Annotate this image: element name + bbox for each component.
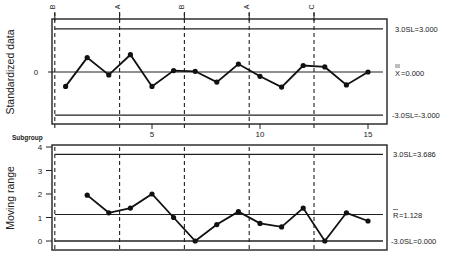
data-point [106,72,111,77]
stage-label: A [243,4,250,9]
data-point [171,215,176,220]
y-tick-label: 3 [38,167,43,176]
center-value-bottom: =1.128 [399,211,422,220]
y-tick-zero: 0 [34,68,39,77]
data-point [279,224,284,229]
data-point [214,222,219,227]
data-point [193,238,198,243]
data-point [149,191,154,196]
data-point [301,63,306,68]
center-value-top: =0.000 [401,69,424,78]
x-tick-label: 5 [150,130,155,139]
data-point [257,74,262,79]
data-point [171,68,176,73]
y-tick-label: 0 [38,237,43,246]
data-point [85,55,90,60]
x-tick-label: 10 [256,130,265,139]
data-line-bottom [87,194,368,241]
lcl-label-top: -3.0SL=-3.000 [392,111,440,120]
stage-label: B [178,4,185,9]
data-point [344,82,349,87]
y-tick-label: 4 [38,143,43,152]
data-point [365,69,370,74]
data-point [322,64,327,69]
subgroup-axis: Subgroup51015 [12,124,373,142]
data-point [236,209,241,214]
subgroup-label: Subgroup [12,134,43,142]
standardized-data-chart: 0Standardized dataBABAC3.0SL=3.000X=0.00… [4,4,440,128]
data-point [193,69,198,74]
y-axis-label-top: Standardized data [4,29,16,114]
control-chart: 0Standardized dataBABAC3.0SL=3.000X=0.00… [0,0,449,263]
ucl-label-top: 3.0SL=3.000 [395,25,438,34]
stage-label: A [114,4,121,9]
x-tick-label: 15 [364,130,373,139]
data-point [149,84,154,89]
data-point [106,210,111,215]
data-point [365,218,370,223]
y-tick-label: 2 [38,190,43,199]
data-point [257,221,262,226]
stage-label: B [49,4,56,9]
data-point [279,85,284,90]
data-point [128,52,133,57]
data-point [301,206,306,211]
center-label-top: X=0.000 [395,65,424,78]
y-tick-label: 1 [38,214,43,223]
center-label-bottom: R=1.128 [393,209,422,220]
moving-range-chart: 43210Moving range3.0SL=3.686R=1.128-3.0S… [4,143,436,252]
plot-frame-bottom [52,145,387,250]
y-axis-label-bottom: Moving range [4,166,16,230]
data-point [344,210,349,215]
data-point [85,193,90,198]
data-point [128,206,133,211]
data-point [236,61,241,66]
ucl-label-bottom: 3.0SL=3.686 [393,150,436,159]
data-point [214,79,219,84]
x-double-bar-symbol: X [395,69,400,78]
data-point [322,238,327,243]
data-point [63,84,68,89]
lcl-label-bottom: -3.0SL=0.000 [391,237,436,246]
stage-label: C [308,4,315,9]
